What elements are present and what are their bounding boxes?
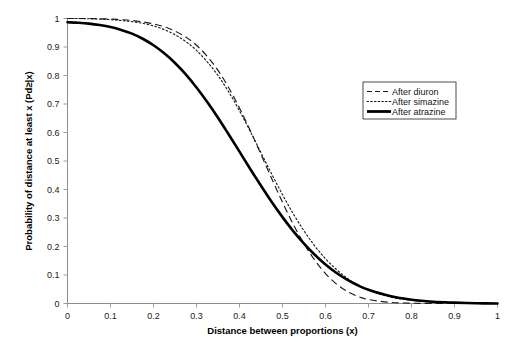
y-tick-label: 0.1 <box>47 270 60 280</box>
series-line-atrazine <box>68 22 498 303</box>
y-tick-label: 0.7 <box>47 99 60 109</box>
axes-group <box>68 19 498 304</box>
x-tick-label: 0.1 <box>104 311 117 321</box>
x-tick-label: 0.5 <box>276 311 289 321</box>
y-tick-label: 0.2 <box>47 242 60 252</box>
x-tick-label: 1 <box>495 311 500 321</box>
x-tick-label: 0.4 <box>233 311 246 321</box>
chart-figure: 00.10.20.30.40.50.60.70.80.91 00.10.20.3… <box>0 0 523 350</box>
x-tick-label: 0.7 <box>362 311 375 321</box>
legend-label-simazine: After simazine <box>392 97 449 107</box>
y-tick-label: 0.9 <box>47 42 60 52</box>
chart-canvas: 00.10.20.30.40.50.60.70.80.91 00.10.20.3… <box>0 0 523 350</box>
x-tick-label: 0 <box>65 311 70 321</box>
y-axis-title: Probability of distance at least x (Pd≥|… <box>23 71 34 250</box>
y-tick-label: 0.3 <box>47 213 60 223</box>
x-tick-label: 0.2 <box>147 311 160 321</box>
x-tick-label: 0.6 <box>319 311 332 321</box>
y-tick-label: 0.5 <box>47 156 60 166</box>
chart-legend: After diuron After simazine After atrazi… <box>363 82 456 119</box>
legend-label-atrazine: After atrazine <box>392 107 446 117</box>
y-tick-label: 0 <box>54 299 59 309</box>
y-tick-label: 1 <box>54 14 59 24</box>
x-axis-ticks: 00.10.20.30.40.50.60.70.80.91 <box>65 304 500 321</box>
x-tick-label: 0.9 <box>448 311 461 321</box>
series-line-diuron <box>68 18 498 303</box>
y-tick-label: 0.6 <box>47 128 60 138</box>
data-series-group <box>68 18 498 303</box>
legend-label-diuron: After diuron <box>392 87 439 97</box>
y-tick-label: 0.4 <box>47 185 60 195</box>
y-tick-label: 0.8 <box>47 71 60 81</box>
series-line-simazine <box>68 18 498 303</box>
x-tick-label: 0.8 <box>405 311 418 321</box>
x-tick-label: 0.3 <box>190 311 203 321</box>
y-axis-ticks: 00.10.20.30.40.50.60.70.80.91 <box>47 14 68 309</box>
x-axis-title: Distance between proportions (x) <box>207 325 357 336</box>
